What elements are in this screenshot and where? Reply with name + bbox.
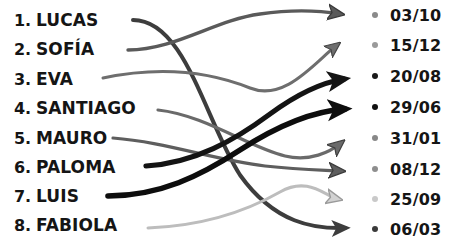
name-index: 4.	[14, 99, 36, 118]
bullet-icon	[372, 104, 378, 110]
date-label: 31/01	[390, 129, 441, 148]
name-label: SOFÍA	[36, 39, 94, 59]
dates-column: 03/10 15/12 20/08 29/06 31/01 08/12 25/0…	[372, 0, 464, 252]
list-item-name-5[interactable]: 5. MAURO	[0, 124, 107, 152]
name-label: FABIOLA	[36, 215, 117, 235]
bullet-icon	[372, 135, 378, 141]
name-label: PALOMA	[36, 157, 115, 177]
name-index: 1.	[14, 11, 36, 30]
bullet-icon	[372, 73, 378, 79]
date-label: 03/10	[390, 6, 441, 25]
name-label: MAURO	[36, 128, 107, 148]
names-column: 1. LUCAS 2. SOFÍA 3. EVA 4. SANTIAGO 5. …	[0, 0, 150, 252]
bullet-icon	[372, 12, 378, 18]
list-item-name-8[interactable]: 8. FABIOLA	[0, 211, 117, 239]
name-index: 3.	[14, 70, 36, 89]
list-item-name-1[interactable]: 1. LUCAS	[0, 6, 98, 34]
name-index: 8.	[14, 216, 36, 235]
date-label: 08/12	[390, 160, 441, 179]
list-item-date-4[interactable]: 29/06	[372, 93, 441, 121]
connector-sofia-to-0310	[128, 11, 340, 50]
list-item-name-4[interactable]: 4. SANTIAGO	[0, 94, 136, 122]
connector-lucas-to-0603	[133, 20, 345, 228]
list-item-date-8[interactable]: 06/03	[372, 215, 441, 243]
bullet-icon	[372, 166, 378, 172]
date-label: 29/06	[390, 98, 441, 117]
list-item-date-6[interactable]: 08/12	[372, 155, 441, 183]
name-label: LUIS	[36, 186, 79, 206]
connector-paloma-to-2008	[146, 79, 344, 166]
list-item-date-7[interactable]: 25/09	[372, 185, 441, 213]
name-label: SANTIAGO	[36, 98, 136, 118]
name-index: 6.	[14, 158, 36, 177]
connector-santiago-to-3101	[158, 110, 341, 158]
date-label: 25/09	[390, 190, 441, 209]
name-index: 2.	[14, 40, 36, 59]
list-item-date-1[interactable]: 03/10	[372, 1, 441, 29]
list-item-name-7[interactable]: 7. LUIS	[0, 182, 79, 210]
date-label: 06/03	[390, 220, 441, 239]
name-label: EVA	[36, 69, 73, 89]
bullet-icon	[372, 196, 378, 202]
list-item-name-3[interactable]: 3. EVA	[0, 65, 73, 93]
list-item-date-2[interactable]: 15/12	[372, 31, 441, 59]
matching-diagram: 1. LUCAS 2. SOFÍA 3. EVA 4. SANTIAGO 5. …	[0, 0, 464, 252]
bullet-icon	[372, 42, 378, 48]
list-item-date-3[interactable]: 20/08	[372, 62, 441, 90]
name-index: 7.	[14, 187, 36, 206]
list-item-date-5[interactable]: 31/01	[372, 124, 441, 152]
connector-fabiola-to-2509	[148, 186, 338, 228]
name-label: LUCAS	[36, 10, 98, 30]
date-label: 15/12	[390, 36, 441, 55]
list-item-name-2[interactable]: 2. SOFÍA	[0, 35, 94, 63]
list-item-name-6[interactable]: 6. PALOMA	[0, 153, 115, 181]
bullet-icon	[372, 226, 378, 232]
name-index: 5.	[14, 129, 36, 148]
date-label: 20/08	[390, 67, 441, 86]
